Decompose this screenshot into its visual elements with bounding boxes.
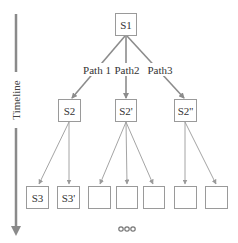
node-s3-prime: S3'	[58, 187, 80, 209]
node-empty-4	[175, 187, 197, 209]
svg-text:S3': S3'	[62, 192, 76, 204]
timeline-arrow: Timeline	[10, 14, 22, 236]
node-empty-3	[144, 187, 165, 209]
node-empty-1	[89, 187, 111, 209]
timeline-arrowhead-icon	[11, 226, 21, 236]
node-empty-2	[117, 187, 138, 209]
node-s2-double-prime: S2''	[175, 100, 197, 122]
level2-edges	[39, 122, 216, 184]
svg-text:S1: S1	[120, 19, 132, 31]
svg-text:S2'': S2''	[178, 105, 194, 117]
node-s2: S2	[59, 100, 81, 122]
node-s3: S3	[27, 187, 49, 209]
path-label-3: Path3	[147, 64, 173, 76]
tree-diagram: Timeline Path 1 Path2 Path3 S1 S2 S2' S	[0, 0, 238, 243]
node-s1: S1	[116, 14, 137, 36]
node-s2-prime: S2'	[116, 100, 137, 122]
svg-text:S3: S3	[32, 192, 44, 204]
path-label-2: Path2	[114, 64, 139, 76]
svg-text:S2': S2'	[119, 105, 133, 117]
timeline-label: Timeline	[10, 80, 22, 119]
svg-text:S2: S2	[64, 105, 76, 117]
node-empty-5	[206, 187, 228, 209]
ellipsis-icon	[119, 227, 135, 231]
path-label-1: Path 1	[83, 64, 111, 76]
